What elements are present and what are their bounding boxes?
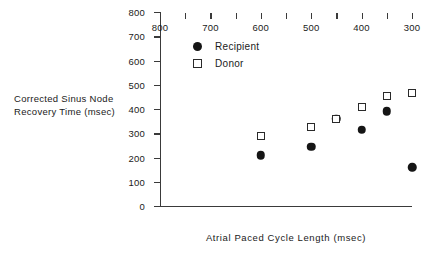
x-tick-label: 600 xyxy=(253,22,269,33)
legend-marker xyxy=(193,42,209,51)
legend-item: Recipient xyxy=(193,38,259,55)
data-point-recipient xyxy=(383,107,392,116)
y-tick-label: 800 xyxy=(129,7,145,18)
x-tick xyxy=(160,13,161,19)
x-tick-minor xyxy=(236,13,237,19)
y-axis-title: Corrected Sinus Node Recovery Time (msec… xyxy=(14,92,134,118)
y-tick: 600 xyxy=(154,61,160,62)
y-tick: 400 xyxy=(154,109,160,110)
x-tick-label: 500 xyxy=(303,22,319,33)
x-tick-minor xyxy=(336,13,337,19)
data-point-recipient xyxy=(408,163,417,172)
x-tick xyxy=(210,13,211,19)
x-tick xyxy=(412,13,413,19)
y-tick-label: 200 xyxy=(129,152,145,163)
data-point-donor xyxy=(307,123,315,131)
x-tick-minor xyxy=(286,13,287,19)
y-tick: 700 xyxy=(154,36,160,37)
x-tick xyxy=(261,13,262,19)
y-tick: 0 xyxy=(154,206,160,207)
chart-figure: Corrected Sinus Node Recovery Time (msec… xyxy=(0,0,436,274)
data-point-donor xyxy=(257,132,265,140)
data-point-recipient xyxy=(307,142,316,151)
y-tick-label: 500 xyxy=(129,79,145,90)
y-tick-label: 700 xyxy=(129,31,145,42)
x-tick-label: 700 xyxy=(202,22,218,33)
y-tick-label: 400 xyxy=(129,104,145,115)
legend-marker xyxy=(193,59,209,68)
x-tick-label: 800 xyxy=(152,22,168,33)
data-point-recipient xyxy=(357,125,366,134)
y-axis-line xyxy=(160,12,161,206)
legend-item: Donor xyxy=(193,55,259,72)
chart-legend: RecipientDonor xyxy=(193,38,259,72)
x-axis-line xyxy=(160,206,412,207)
x-tick-label: 400 xyxy=(353,22,369,33)
x-axis-title: Atrial Paced Cycle Length (msec) xyxy=(160,232,412,243)
y-tick-label: 300 xyxy=(129,128,145,139)
data-point-donor xyxy=(358,103,366,111)
x-tick-minor xyxy=(387,13,388,19)
legend-label: Recipient xyxy=(215,41,259,52)
data-point-donor xyxy=(332,115,340,123)
y-tick: 500 xyxy=(154,85,160,86)
x-tick-minor xyxy=(185,13,186,19)
x-tick xyxy=(311,13,312,19)
x-tick xyxy=(362,13,363,19)
y-tick-label: 600 xyxy=(129,55,145,66)
data-point-recipient xyxy=(257,151,266,160)
y-tick: 100 xyxy=(154,182,160,183)
y-tick-label: 100 xyxy=(129,176,145,187)
filled-circle-icon xyxy=(193,42,202,51)
y-tick: 200 xyxy=(154,158,160,159)
y-tick: 300 xyxy=(154,133,160,134)
data-point-donor xyxy=(383,92,391,100)
x-tick-label: 300 xyxy=(404,22,420,33)
data-point-donor xyxy=(408,89,416,97)
open-square-icon xyxy=(193,59,202,68)
legend-label: Donor xyxy=(215,58,244,69)
y-tick-label: 0 xyxy=(140,201,145,212)
